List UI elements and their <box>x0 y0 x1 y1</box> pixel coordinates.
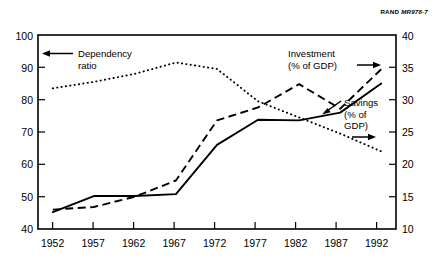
x-axis-ticks <box>53 222 377 229</box>
left-tick-40: 40 <box>21 223 33 235</box>
arrow-right-head-icon <box>373 62 381 69</box>
rand-logo-text: RAND <box>380 8 399 15</box>
annotation-investment: Investment (% of GDP) <box>288 48 381 71</box>
x-tick-1992: 1992 <box>365 237 389 249</box>
x-tick-1962: 1962 <box>122 237 146 249</box>
arrow-right-head-icon-savings <box>368 134 376 141</box>
annotation-savings-line1: Savings <box>344 97 378 108</box>
annotation-savings-line2: (% of <box>344 109 367 120</box>
x-tick-1977: 1977 <box>243 237 267 249</box>
right-tick-30: 30 <box>402 94 414 106</box>
rand-credit: RANDMR978-7 <box>380 9 428 15</box>
arrow-left-head-icon <box>42 50 50 57</box>
right-tick-40: 40 <box>402 30 414 42</box>
x-tick-1987: 1987 <box>324 237 348 249</box>
left-tick-100: 100 <box>15 30 33 42</box>
annotation-investment-line2: (% of GDP) <box>288 60 337 71</box>
right-tick-20: 20 <box>402 158 414 170</box>
x-tick-1952: 1952 <box>41 237 65 249</box>
x-axis-labels: 1952 1957 1962 1967 1972 1977 1982 1987 … <box>41 237 389 249</box>
chart-figure: RANDMR978-7 <box>0 0 435 269</box>
left-tick-90: 90 <box>21 62 33 74</box>
annotation-dependency-ratio: Dependency ratio <box>42 48 132 71</box>
left-tick-80: 80 <box>21 94 33 106</box>
annotation-savings-line3: GDP) <box>344 120 368 131</box>
left-axis-ticks <box>38 67 45 196</box>
right-axis-ticks <box>389 67 396 196</box>
x-tick-1972: 1972 <box>203 237 227 249</box>
right-axis-labels: 40 35 30 25 20 15 10 <box>402 30 414 236</box>
right-tick-10: 10 <box>402 223 414 235</box>
right-tick-35: 35 <box>402 62 414 74</box>
annotation-investment-line1: Investment <box>288 48 335 59</box>
rand-report-code: MR978-7 <box>399 8 428 15</box>
left-tick-60: 60 <box>21 158 33 170</box>
left-tick-70: 70 <box>21 126 33 138</box>
x-tick-1982: 1982 <box>284 237 308 249</box>
series-line-investment <box>53 69 381 209</box>
x-tick-1967: 1967 <box>162 237 186 249</box>
annotation-dependency-line1: Dependency <box>78 48 132 59</box>
left-axis-labels: 100 90 80 70 60 50 40 <box>15 30 33 236</box>
right-tick-15: 15 <box>402 191 414 203</box>
x-tick-1957: 1957 <box>81 237 105 249</box>
annotation-dependency-line2: ratio <box>78 60 97 71</box>
right-tick-25: 25 <box>402 126 414 138</box>
left-tick-50: 50 <box>21 191 33 203</box>
line-chart: 100 90 80 70 60 50 40 40 35 30 25 20 15 … <box>0 0 435 269</box>
